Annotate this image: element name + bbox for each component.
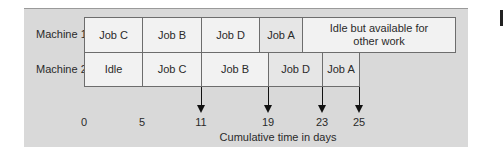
arrow-down-icon [355, 105, 363, 113]
tick-25: 25 [353, 116, 365, 128]
edge-bar [500, 10, 503, 26]
row-label-machine-2: Machine 2 [36, 52, 87, 87]
arrow-down-icon [318, 105, 326, 113]
m2-idle: Idle [84, 52, 143, 87]
arrow-down-icon [264, 105, 272, 113]
arrow-19-line [268, 87, 269, 107]
tick-11: 11 [195, 116, 206, 128]
m2-job-c: Job C [142, 52, 202, 87]
arrow-down-icon [197, 105, 205, 113]
m1-job-d: Job D [201, 17, 260, 53]
row-label-machine-1: Machine 1 [36, 17, 87, 52]
m1-idle-available: Idle but available for other work [302, 17, 456, 53]
m2-job-a: Job A [322, 52, 360, 87]
arrow-11-line [201, 87, 202, 107]
arrow-25-line [359, 87, 360, 107]
tick-19: 19 [262, 116, 274, 128]
tick-5: 5 [139, 116, 145, 128]
m1-job-c: Job C [84, 17, 143, 53]
tick-0: 0 [81, 116, 87, 128]
arrow-23-line [322, 87, 323, 107]
m1-job-a: Job A [259, 17, 303, 53]
m1-job-b: Job B [142, 17, 202, 53]
tick-23: 23 [316, 116, 328, 128]
axis-label: Cumulative time in days [220, 131, 337, 143]
m2-job-b: Job B [201, 52, 269, 87]
m2-job-d: Job D [268, 52, 323, 87]
